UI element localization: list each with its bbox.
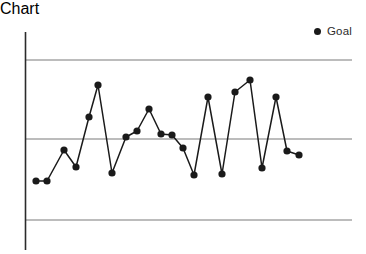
data-point	[60, 146, 67, 153]
data-point	[231, 88, 238, 95]
data-point	[43, 177, 50, 184]
data-point	[157, 130, 164, 137]
reference-lines	[25, 60, 352, 220]
data-point	[295, 151, 302, 158]
data-point	[283, 147, 290, 154]
data-point	[133, 127, 140, 134]
data-point	[94, 81, 101, 88]
data-point	[72, 163, 79, 170]
chart-legend: Goal	[314, 26, 352, 38]
series-goal	[32, 76, 302, 184]
run-chart: Goal	[0, 18, 366, 254]
data-point	[272, 93, 279, 100]
data-point	[218, 170, 225, 177]
data-point	[204, 93, 211, 100]
data-point	[85, 113, 92, 120]
legend-label-goal: Goal	[327, 26, 352, 38]
data-point	[258, 164, 265, 171]
chart-canvas	[0, 18, 366, 254]
data-point	[190, 171, 197, 178]
data-point	[168, 131, 175, 138]
data-point	[108, 169, 115, 176]
data-point	[32, 177, 39, 184]
data-point	[145, 105, 152, 112]
legend-marker-goal-icon	[314, 28, 321, 35]
series-markers	[32, 76, 302, 184]
data-point	[246, 76, 253, 83]
data-point	[122, 133, 129, 140]
data-point	[179, 144, 186, 151]
